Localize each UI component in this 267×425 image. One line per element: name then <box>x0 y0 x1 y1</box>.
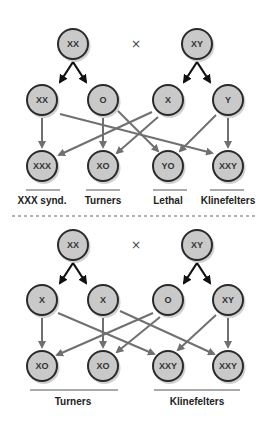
split-arrow-icon <box>184 62 197 82</box>
parent-node-xy: XY <box>182 230 215 263</box>
split-arrow-icon <box>60 263 73 283</box>
cross-symbol: × <box>131 37 141 51</box>
split-arrow-icon <box>184 263 197 283</box>
top-outcome-labels: XXX synd. Turners Lethal Klinefelters <box>18 195 256 206</box>
node-label: XXY <box>219 361 237 371</box>
outcome-label-klinefelters: Klinefelters <box>170 396 225 407</box>
node-label: XO <box>96 361 109 371</box>
top-nodes: XXXYXXOXYXXXXOYOXXY <box>27 29 246 184</box>
node-label: XXY <box>159 361 177 371</box>
node-label: XX <box>67 240 79 250</box>
connector-arrow-icon <box>117 117 158 153</box>
node-label: YO <box>161 161 174 171</box>
offspring-node-yo: YO <box>153 151 186 184</box>
node-label: XXX <box>33 161 51 171</box>
outcome-label-lethal: Lethal <box>153 195 183 206</box>
split-arrow-icon <box>197 263 210 283</box>
node-label: X <box>165 95 171 105</box>
node-label: XY <box>191 240 203 250</box>
outcome-label-turners: Turners <box>55 396 92 407</box>
offspring-node-xxy: XXY <box>213 351 246 384</box>
bottom-split-arrows <box>60 263 210 283</box>
node-label: O <box>164 295 171 305</box>
node-label: XX <box>67 39 79 49</box>
outcome-label-xxx-synd: XXX synd. <box>18 195 67 206</box>
connector-arrow-icon <box>180 115 216 151</box>
bottom-connectors <box>42 311 228 355</box>
gamete-node-xy: XY <box>213 285 246 318</box>
bottom-outcome-labels: Turners Klinefelters <box>55 396 225 407</box>
cross-symbol: × <box>131 238 141 252</box>
node-label: Y <box>225 95 231 105</box>
node-label: XXY <box>219 161 237 171</box>
split-arrow-icon <box>60 62 73 82</box>
gamete-node-x: X <box>153 85 186 118</box>
split-arrow-icon <box>197 62 210 82</box>
nondisjunction-diagram: XXXYXXOXYXXXXOYOXXY × XXX synd. Turners … <box>0 0 267 425</box>
outcome-label-klinefelters: Klinefelters <box>201 195 256 206</box>
top-split-arrows <box>60 62 210 82</box>
split-arrow-icon <box>73 62 86 82</box>
node-label: XX <box>36 95 48 105</box>
node-label: X <box>100 295 106 305</box>
parent-node-xx: XX <box>58 230 91 263</box>
offspring-node-xxy: XXY <box>153 351 186 384</box>
offspring-node-xo: XO <box>88 151 121 184</box>
outcome-label-turners: Turners <box>85 195 122 206</box>
gamete-node-y: Y <box>213 85 246 118</box>
offspring-node-xo: XO <box>88 351 121 384</box>
node-label: O <box>99 95 106 105</box>
node-label: X <box>39 295 45 305</box>
gamete-node-x: X <box>88 285 121 318</box>
gamete-node-o: O <box>153 285 186 318</box>
connector-arrow-icon <box>178 315 216 350</box>
split-arrow-icon <box>73 263 86 283</box>
offspring-node-xxx: XXX <box>27 151 60 184</box>
node-label: XO <box>35 361 48 371</box>
node-label: XY <box>222 295 234 305</box>
gamete-node-xx: XX <box>27 85 60 118</box>
node-label: XY <box>191 39 203 49</box>
bottom-nodes: XXXYXXOXYXOXOXXYXXY <box>27 230 246 384</box>
gamete-node-o: O <box>88 85 121 118</box>
offspring-node-xo: XO <box>27 351 60 384</box>
gamete-node-x: X <box>27 285 60 318</box>
parent-node-xy: XY <box>182 29 215 62</box>
parent-node-xx: XX <box>58 29 91 62</box>
offspring-node-xxy: XXY <box>213 151 246 184</box>
top-connectors <box>42 111 228 155</box>
node-label: XO <box>96 161 109 171</box>
